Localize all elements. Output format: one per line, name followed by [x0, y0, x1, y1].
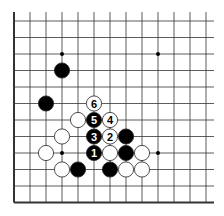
black-stone — [118, 129, 133, 144]
move-number-label: 1 — [91, 147, 97, 159]
white-stone: 2 — [102, 129, 117, 144]
white-stone-icon — [38, 145, 53, 160]
white-stone: 4 — [102, 112, 117, 127]
white-stone-icon — [54, 129, 69, 144]
black-stone — [70, 162, 85, 177]
white-stone-icon — [54, 162, 69, 177]
white-stone — [134, 162, 149, 177]
black-stone — [38, 96, 53, 111]
white-stone-icon — [70, 112, 85, 127]
black-stone — [118, 145, 133, 160]
white-stone — [118, 162, 133, 177]
black-stone: 5 — [86, 112, 101, 127]
white-stone — [54, 162, 69, 177]
move-number-label: 2 — [107, 131, 113, 143]
star-point-icon — [156, 151, 160, 155]
star-point-icon — [60, 52, 64, 56]
black-stone-icon — [118, 145, 133, 160]
white-stone-icon — [118, 162, 133, 177]
black-stone — [54, 63, 69, 78]
move-number-label: 4 — [107, 114, 114, 126]
black-stone: 1 — [86, 145, 101, 160]
star-point-icon — [156, 52, 160, 56]
black-stone — [102, 162, 117, 177]
move-number-label: 3 — [91, 131, 97, 143]
white-stone: 6 — [86, 96, 101, 111]
white-stone — [38, 145, 53, 160]
white-stone — [70, 112, 85, 127]
white-stone-icon — [102, 145, 117, 160]
black-stone-icon — [54, 63, 69, 78]
white-stone — [102, 145, 117, 160]
white-stone-icon — [134, 162, 149, 177]
black-stone-icon — [38, 96, 53, 111]
white-stone-icon — [134, 145, 149, 160]
black-stone-icon — [118, 129, 133, 144]
star-point-icon — [60, 151, 64, 155]
move-number-label: 5 — [91, 114, 97, 126]
white-stone — [54, 129, 69, 144]
black-stone-icon — [102, 162, 117, 177]
black-stone: 3 — [86, 129, 101, 144]
white-stone — [134, 145, 149, 160]
move-number-label: 6 — [91, 98, 97, 110]
go-board: 654321 — [0, 0, 224, 216]
black-stone-icon — [70, 162, 85, 177]
